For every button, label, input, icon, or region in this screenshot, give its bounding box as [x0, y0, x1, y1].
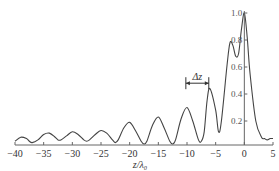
- x-tick-label: −30: [65, 148, 81, 159]
- x-tick-label: −25: [93, 148, 109, 159]
- annotation-arrowhead-right: [205, 81, 209, 85]
- y-tick-label: 0.8: [231, 35, 243, 45]
- x-tick-label: −5: [210, 148, 221, 159]
- annotation-arrowhead-left: [186, 81, 190, 85]
- x-tick-label: 5: [271, 148, 276, 159]
- x-tick-label: −40: [7, 148, 23, 159]
- annotation-label: Δz: [191, 71, 202, 82]
- y-tick-label: 1.0: [231, 8, 243, 18]
- delta-z-annotation: Δz: [186, 71, 209, 89]
- x-tick-label: 0: [242, 148, 247, 159]
- x-tick-label: −15: [151, 148, 167, 159]
- y-tick-label: 0.6: [231, 62, 243, 72]
- y-tick-label: 0.4: [231, 89, 243, 99]
- x-axis-label: z/λ₀: [132, 159, 148, 170]
- y-tick-label: 0.2: [231, 116, 242, 126]
- x-tick-label: −35: [36, 148, 52, 159]
- x-tick-label: −10: [179, 148, 195, 159]
- x-tick-label: −20: [122, 148, 138, 159]
- chart: −40−35−30−25−20−15−10−505 0.20.40.60.81.…: [0, 0, 279, 171]
- y-ticks: 0.20.40.60.81.0: [231, 8, 247, 145]
